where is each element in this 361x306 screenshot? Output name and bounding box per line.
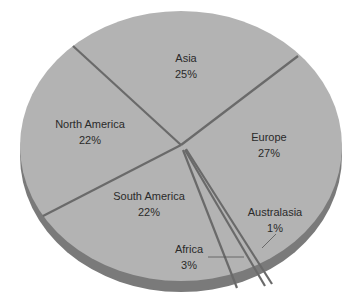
pie-chart: Asia25% North America22% Europe27% South… — [0, 0, 361, 306]
side-gaps — [237, 285, 272, 298]
